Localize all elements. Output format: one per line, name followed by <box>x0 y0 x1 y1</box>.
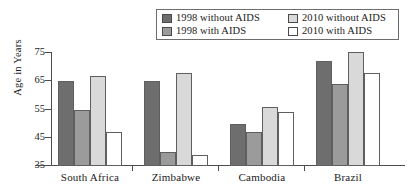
bar <box>348 52 364 166</box>
y-tick-label: 55 <box>21 104 45 115</box>
x-axis-label: Brazil <box>293 172 403 183</box>
bar <box>316 61 332 166</box>
bar <box>160 152 176 166</box>
bar <box>246 132 262 166</box>
legend-swatch-icon <box>162 14 172 23</box>
x-tick-mark <box>304 165 305 171</box>
legend-item-2010-with-aids: 2010 with AIDS <box>288 26 394 37</box>
x-tick-mark <box>132 165 133 171</box>
legend-item-1998-with-aids: 1998 with AIDS <box>162 26 288 37</box>
legend-swatch-icon <box>288 27 298 36</box>
legend-item-1998-without-aids: 1998 without AIDS <box>162 13 288 24</box>
bar <box>364 73 380 166</box>
y-tick-label: 65 <box>21 75 45 86</box>
chart-legend: 1998 without AIDS 2010 without AIDS 1998… <box>156 9 399 40</box>
bar <box>332 84 348 166</box>
plot-area <box>52 50 392 166</box>
bar <box>278 112 294 166</box>
legend-label: 1998 with AIDS <box>176 26 246 37</box>
bar <box>74 110 90 167</box>
bar <box>262 107 278 166</box>
y-axis-title: Age in Years <box>12 18 23 118</box>
bar-chart: 1998 without AIDS 2010 without AIDS 1998… <box>0 0 411 191</box>
bar-group-cambodia <box>230 51 294 166</box>
bar <box>192 155 208 166</box>
bar <box>90 76 106 166</box>
bar-group-brazil <box>316 51 380 166</box>
legend-label: 2010 with AIDS <box>302 26 372 37</box>
x-tick-mark <box>218 165 219 171</box>
bar <box>230 124 246 166</box>
y-tick-label: 45 <box>21 132 45 143</box>
bar <box>58 81 74 166</box>
legend-label: 1998 without AIDS <box>176 13 260 24</box>
bar <box>176 73 192 166</box>
legend-swatch-icon <box>162 27 172 36</box>
legend-item-2010-without-aids: 2010 without AIDS <box>288 13 394 24</box>
legend-swatch-icon <box>288 14 298 23</box>
legend-label: 2010 without AIDS <box>302 13 386 24</box>
bar-group-south-africa <box>58 51 122 166</box>
bar <box>106 132 122 166</box>
bar <box>144 81 160 166</box>
y-tick-label: 75 <box>21 47 45 58</box>
bar-group-zimbabwe <box>144 51 208 166</box>
